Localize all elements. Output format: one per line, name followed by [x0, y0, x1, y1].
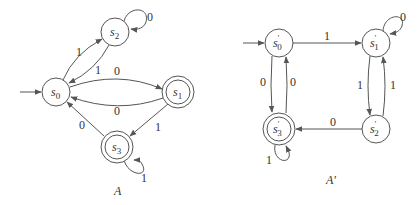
edge-label-s1-s0: 0: [114, 104, 120, 118]
edge-label-s3-s0: 0: [79, 118, 85, 132]
edge-label-s1p-s1p: 0: [400, 10, 406, 24]
edge-label-s0p-s1p: 1: [324, 29, 330, 43]
state-s0: s0: [42, 78, 70, 106]
edge-label-s1p-s2p: 1: [357, 78, 363, 92]
state-s0-prime: s'0: [265, 29, 293, 57]
state-s1-prime: s'1: [362, 29, 390, 57]
state-s3: s3: [101, 131, 133, 163]
caption-a: A: [113, 184, 122, 198]
edge-s0p-s3p: [271, 56, 272, 112]
state-s1: s1: [162, 76, 194, 108]
edge-s2-s0: [69, 45, 109, 83]
state-s2-prime: s'2: [362, 115, 390, 143]
edge-s3-s0: [67, 102, 104, 136]
edge-label-s3-s3: 1: [141, 171, 147, 185]
edge-label-s3p-s3p: 1: [266, 153, 272, 167]
caption-a-prime: A': [325, 173, 336, 187]
automata-figure: 1 1 0 0 0 1 0 1 s0 s2: [0, 0, 420, 205]
diagram-a-prime: 1 0 1 1 0 0 0 1 s'0 s'1 s: [243, 10, 406, 187]
edge-label-s2p-s3p: 0: [330, 115, 336, 129]
edge-s0-s1: [70, 79, 162, 89]
edge-s3p-s3p: [275, 145, 290, 160]
edge-label-s3p-s0p: 0: [290, 75, 296, 89]
edge-s3p-s0p: [286, 57, 287, 113]
edge-label-s2-s2: 0: [147, 10, 153, 24]
state-s2: s2: [101, 18, 129, 46]
edge-label-s1-s3: 1: [155, 120, 161, 134]
edge-label-s2p-s1p: 1: [390, 78, 396, 92]
edge-s1p-s2p: [368, 56, 370, 115]
edge-s2p-s1p: [383, 57, 385, 116]
edge-s1-s3: [130, 104, 168, 136]
edge-label-s0-s2: 1: [76, 45, 82, 59]
edge-label-s2-s0: 1: [95, 63, 101, 77]
diagram-a: 1 1 0 0 0 1 0 1 s0 s2: [20, 10, 194, 198]
edge-label-s0p-s3p: 0: [260, 75, 266, 89]
edge-label-s0-s1: 0: [114, 64, 120, 78]
state-s3-prime: s'3: [263, 113, 295, 145]
